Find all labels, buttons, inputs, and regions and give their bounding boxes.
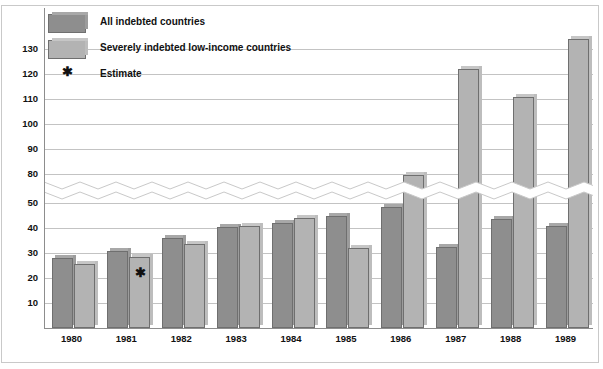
y-tick-label-50: 50 xyxy=(4,197,38,208)
bar-1986-series2 xyxy=(403,175,424,328)
y-tick-label-40: 40 xyxy=(4,222,38,233)
gridline-100 xyxy=(44,124,593,125)
dark-gray-swatch-icon xyxy=(48,14,86,33)
bar-1984-series2 xyxy=(294,218,315,328)
light-gray-swatch-icon xyxy=(48,40,86,59)
y-tick-label-20: 20 xyxy=(4,272,38,283)
bar-1983-series1 xyxy=(217,227,238,328)
gridline-90 xyxy=(44,149,593,150)
x-tick-label-1983: 1983 xyxy=(209,333,264,344)
x-axis-line xyxy=(44,328,593,329)
legend-label-estimate: Estimate xyxy=(100,68,142,79)
x-tick-label-1989: 1989 xyxy=(538,333,593,344)
x-tick-label-1986: 1986 xyxy=(373,333,428,344)
bar-1983-series2 xyxy=(239,226,260,329)
x-tick-label-1982: 1982 xyxy=(154,333,209,344)
legend-label-severely-indebted: Severely indebted low-income countries xyxy=(100,42,291,53)
bar-1987-series2 xyxy=(458,69,479,328)
bar-1980-series1 xyxy=(52,258,73,328)
y-tick-label-80: 80 xyxy=(4,168,38,179)
asterisk-marker-icon: ✱ xyxy=(62,65,73,79)
bar-1988-series1 xyxy=(491,219,512,328)
bar-1989-series1 xyxy=(546,226,567,329)
y-tick-label-10: 10 xyxy=(4,297,38,308)
bar-1985-series1 xyxy=(326,216,347,329)
legend-label-all-indebted: All indebted countries xyxy=(100,16,205,27)
x-tick-label-1985: 1985 xyxy=(319,333,374,344)
bar-1988-series2 xyxy=(513,97,534,329)
estimate-asterisk-marker-icon: ✱ xyxy=(135,269,146,277)
gridline-80 xyxy=(44,174,593,175)
axis-break-mask xyxy=(44,172,593,207)
y-tick-label-100: 100 xyxy=(4,118,38,129)
x-tick-label-1988: 1988 xyxy=(483,333,538,344)
axis-break-zigzag xyxy=(44,172,593,207)
chart-screenshot: ✱ 10203040508090100110120130 19801981198… xyxy=(0,0,603,369)
bar-1986-series1 xyxy=(381,207,402,328)
bar-1981-series1 xyxy=(107,251,128,329)
y-tick-label-120: 120 xyxy=(4,68,38,79)
y-tick-label-30: 30 xyxy=(4,247,38,258)
bar-1980-series2 xyxy=(74,264,95,328)
bar-1989-series2 xyxy=(568,39,589,328)
x-tick-label-1984: 1984 xyxy=(264,333,319,344)
y-tick-label-90: 90 xyxy=(4,143,38,154)
bar-1985-series2 xyxy=(348,248,369,328)
x-tick-label-1987: 1987 xyxy=(428,333,483,344)
bar-1984-series1 xyxy=(272,223,293,328)
x-tick-label-1981: 1981 xyxy=(99,333,154,344)
y-tick-label-130: 130 xyxy=(4,43,38,54)
plot-area: ✱ xyxy=(44,8,593,328)
gridline-50 xyxy=(44,203,593,204)
y-tick-label-110: 110 xyxy=(4,93,38,104)
x-tick-label-1980: 1980 xyxy=(44,333,99,344)
bar-1982-series1 xyxy=(162,238,183,328)
bar-1987-series1 xyxy=(436,247,457,329)
bar-1982-series2 xyxy=(184,244,205,328)
y-axis-line xyxy=(44,8,45,328)
gridline-110 xyxy=(44,99,593,100)
